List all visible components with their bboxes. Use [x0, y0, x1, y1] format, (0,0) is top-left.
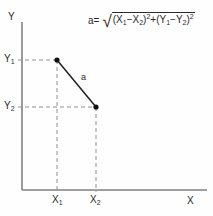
- data-point-p1: [54, 57, 59, 62]
- term2-sub1: 1: [166, 19, 170, 26]
- x1-base: X: [52, 194, 59, 205]
- diagram-canvas: [0, 0, 213, 216]
- x-tick-label-x1: X1: [52, 194, 63, 205]
- x1-sub: 1: [59, 199, 63, 206]
- segment-a-label: a: [81, 72, 86, 82]
- segment-a-line: [57, 60, 96, 107]
- term1-open: (X: [113, 14, 123, 25]
- x-tick-label-x2: X2: [90, 194, 101, 205]
- term2-sub2: 2: [183, 19, 187, 26]
- y1-base: Y: [4, 53, 11, 64]
- term1-minus: −X: [127, 14, 140, 25]
- formula-radical: √(X1−X2)2+(Y1−Y2)2: [102, 14, 194, 27]
- term1-sub2: 2: [139, 19, 143, 26]
- term2-minus: −Y: [170, 14, 183, 25]
- data-point-p2: [93, 104, 98, 109]
- term1-power: 2: [146, 13, 150, 20]
- x-axis-label: X: [187, 195, 194, 206]
- x2-sub: 2: [97, 199, 101, 206]
- term2-open: (Y: [156, 14, 166, 25]
- formula-lhs: a=: [88, 15, 99, 26]
- radical-sign-icon: √: [102, 17, 111, 27]
- distance-formula-figure: a=√(X1−X2)2+(Y1−Y2)2 Y X Y1 Y2 X1 X2 a: [0, 0, 213, 216]
- y2-sub: 2: [11, 105, 15, 112]
- y-tick-label-y2: Y2: [4, 100, 15, 111]
- y-tick-label-y1: Y1: [4, 53, 15, 64]
- x2-base: X: [90, 194, 97, 205]
- y1-sub: 1: [11, 58, 15, 65]
- distance-formula: a=√(X1−X2)2+(Y1−Y2)2: [88, 14, 195, 27]
- formula-radicand: (X1−X2)2+(Y1−Y2)2: [112, 12, 195, 25]
- y-axis-label: Y: [8, 11, 15, 22]
- term2-power: 2: [190, 13, 194, 20]
- term1-sub1: 1: [123, 19, 127, 26]
- y2-base: Y: [4, 100, 11, 111]
